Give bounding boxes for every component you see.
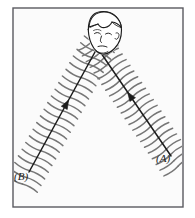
illustration-canvas: (A)(B) xyxy=(0,0,195,218)
figure-container: (A)(B) xyxy=(0,0,195,218)
label-arrow-a: (A) xyxy=(156,152,170,165)
label-arrow-b: (B) xyxy=(14,170,28,183)
